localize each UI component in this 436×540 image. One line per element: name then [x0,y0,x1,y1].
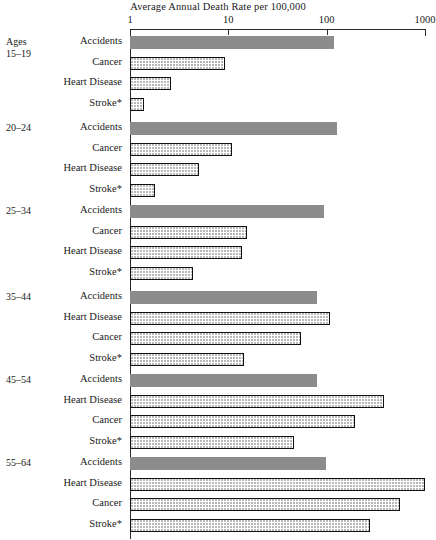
bar-row: Accidents [0,205,436,218]
bar-group: 55–64AccidentsHeart DiseaseCancerStroke* [0,457,436,539]
bar-category-label: Cancer [2,225,122,236]
bar-row: Accidents [0,374,436,387]
bar-category-label: Accidents [2,456,122,467]
bar-category-label: Accidents [2,204,122,215]
bar-group: 35–44AccidentsHeart DiseaseCancerStroke* [0,291,436,373]
bar-row: Heart Disease [0,478,436,491]
bar-row: Stroke* [0,436,436,449]
bar [130,519,370,532]
bar-category-label: Stroke* [2,97,122,108]
bar [130,122,337,135]
bar-category-label: Heart Disease [2,76,122,87]
x-axis-tick-label: 10 [223,14,234,25]
bar [130,353,244,366]
bar-category-label: Cancer [2,414,122,425]
bar-group: 20–24AccidentsCancerHeart DiseaseStroke* [0,122,436,204]
bar [130,478,425,491]
bar [130,436,294,449]
bar-row: Heart Disease [0,395,436,408]
bar-row: Stroke* [0,353,436,366]
bar-row: Accidents [0,457,436,470]
bar [130,184,155,197]
bar-row: Cancer [0,498,436,511]
bar [130,57,225,70]
bar-category-label: Cancer [2,331,122,342]
bar-row: Heart Disease [0,312,436,325]
x-axis-tick [425,29,426,36]
bar [130,77,171,90]
bar-category-label: Stroke* [2,183,122,194]
bar-category-label: Heart Disease [2,477,122,488]
bar-row: Stroke* [0,267,436,280]
bar-category-label: Cancer [2,56,122,67]
bar [130,498,400,511]
bar [130,226,247,239]
bar-category-label: Heart Disease [2,245,122,256]
bar [130,143,232,156]
bar-row: Cancer [0,226,436,239]
bar-row: Stroke* [0,98,436,111]
bar-row: Accidents [0,291,436,304]
x-axis-line [130,29,425,30]
bar-row: Stroke* [0,519,436,532]
bar-group: Ages 15–19AccidentsCancerHeart DiseaseSt… [0,36,436,118]
bar [130,457,326,470]
bar-category-label: Heart Disease [2,162,122,173]
bar [130,395,384,408]
bar-category-label: Accidents [2,290,122,301]
bar-row: Stroke* [0,184,436,197]
x-axis-tick [228,29,229,35]
bar-category-label: Stroke* [2,435,122,446]
bar-category-label: Accidents [2,35,122,46]
bar [130,312,330,325]
x-axis-tick [130,29,131,36]
chart-title: Average Annual Death Rate per 100,000 [0,1,436,12]
chart-root: Average Annual Death Rate per 100,000 11… [0,0,436,540]
bar [130,36,334,49]
bar [130,267,193,280]
x-axis-tick [327,29,328,35]
bar-category-label: Heart Disease [2,394,122,405]
bar-category-label: Heart Disease [2,311,122,322]
bar [130,163,199,176]
bar [130,98,144,111]
bar [130,291,317,304]
bar-category-label: Stroke* [2,518,122,529]
bar-row: Heart Disease [0,246,436,259]
bar-group: 25–34AccidentsCancerHeart DiseaseStroke* [0,205,436,287]
bar [130,374,317,387]
bar-group: 45–54AccidentsHeart DiseaseCancerStroke* [0,374,436,456]
bar-category-label: Stroke* [2,266,122,277]
bar-category-label: Stroke* [2,352,122,363]
x-axis-tick-labels: 1101001000 [0,14,436,27]
bar-category-label: Cancer [2,142,122,153]
x-axis-tick-label: 1000 [414,14,435,25]
bar [130,205,324,218]
bar [130,332,301,345]
x-axis-tick-label: 100 [319,14,335,25]
bar-row: Cancer [0,143,436,156]
bar-row: Heart Disease [0,77,436,90]
bar [130,415,355,428]
bar-row: Cancer [0,415,436,428]
bar-row: Accidents [0,122,436,135]
bar-category-label: Cancer [2,497,122,508]
bar-row: Cancer [0,57,436,70]
bar-category-label: Accidents [2,373,122,384]
bar-row: Heart Disease [0,163,436,176]
bar-row: Cancer [0,332,436,345]
bar [130,246,242,259]
bar-row: Accidents [0,36,436,49]
bar-category-label: Accidents [2,121,122,132]
x-axis-tick-label: 1 [127,14,132,25]
